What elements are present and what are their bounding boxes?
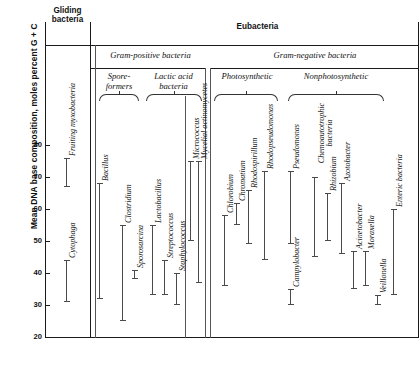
y-tick-label-50: 50	[24, 237, 42, 245]
header-eubacteria: Eubacteria	[96, 22, 419, 31]
header-lactic-line2: bacteria	[159, 81, 188, 91]
range-bar	[393, 209, 394, 295]
range-bar-label: Moraxella	[368, 215, 376, 249]
range-bar-label: Pseudomonas	[293, 124, 301, 169]
range-bar-label: Clostridium	[125, 184, 133, 223]
range-bar-label: Staphylococcus	[179, 221, 187, 271]
range-bar-label: Lactobacillus	[155, 179, 163, 223]
range-bar-label: Rhizobium	[330, 156, 338, 191]
y-axis-line	[45, 22, 46, 338]
chart-figure: Mean DNA base composition, moles percent…	[0, 0, 420, 366]
range-bar-label: Rhodopseudomonas	[267, 103, 275, 168]
brace-nonphotosynthetic	[288, 94, 384, 101]
header-gliding-bacteria: Gliding bacteria	[45, 6, 90, 24]
brace-spore-formers	[99, 94, 139, 101]
range-bar	[152, 225, 153, 295]
y-tick-label-20: 20	[24, 333, 42, 341]
y-tick-80	[45, 145, 50, 146]
range-bar-label: Rhodospirillum	[251, 137, 259, 187]
range-bar-label: Chlorobium	[227, 175, 235, 214]
divider-actinomycetes-left	[185, 96, 186, 338]
header-lactic-line1: Lactic acid	[154, 71, 192, 81]
range-bar	[134, 270, 135, 280]
range-bar	[264, 171, 265, 261]
header-spore-line2: formers	[106, 81, 133, 91]
range-bar	[290, 289, 291, 305]
range-bar	[341, 183, 342, 253]
header-rule-gram-negative	[210, 68, 419, 69]
range-bar-label: Fruiting myxobacteria	[69, 83, 77, 156]
range-bar-label: Azotobacter	[344, 142, 352, 181]
range-bar	[327, 193, 328, 241]
range-bar	[353, 251, 354, 289]
header-rule-gram-positive	[90, 68, 205, 69]
range-bar-label: Campylobacter	[293, 237, 301, 287]
range-bar	[377, 295, 378, 305]
range-bar-label: Enteric bacteria	[396, 154, 404, 207]
range-bar	[314, 177, 315, 257]
range-bar-label: Bacillus	[102, 155, 110, 182]
brace-lactic-acid	[146, 94, 202, 101]
header-spore-formers: Spore- formers	[96, 72, 142, 91]
header-nonphotosynthetic: Nonphotosynthetic	[286, 72, 386, 82]
range-bar-label: Streptococcus	[167, 213, 175, 258]
range-bar	[290, 171, 291, 245]
header-gram-negative: Gram-negative bacteria	[211, 51, 419, 61]
range-bar	[176, 273, 177, 305]
header-gliding-line1: Gliding	[53, 6, 81, 15]
range-bar	[99, 183, 100, 298]
range-bar	[66, 260, 67, 302]
y-tick-label-30: 30	[24, 301, 42, 309]
range-bar	[236, 203, 237, 225]
y-tick-20	[45, 337, 50, 338]
range-bar	[365, 251, 366, 286]
y-tick-40	[45, 273, 50, 274]
header-gliding-line2: bacteria	[52, 15, 83, 24]
y-tick-label-60: 60	[24, 205, 42, 213]
header-lactic-acid-bacteria: Lactic acid bacteria	[143, 72, 204, 91]
divider-gliding-eubacteria	[90, 22, 91, 338]
range-bar-label: Chromatium	[239, 160, 247, 201]
divider-gramneg-right	[210, 68, 211, 338]
header-gram-positive: Gram-positive bacteria	[96, 51, 205, 61]
y-tick-label-80: 80	[24, 141, 42, 149]
range-bar-label: Veillonella	[380, 259, 388, 294]
range-bar	[248, 190, 249, 244]
y-tick-label-40: 40	[24, 269, 42, 277]
range-bar	[164, 260, 165, 295]
range-bar	[224, 215, 225, 285]
range-bar-label: Acinetobacter	[356, 203, 364, 248]
header-rule-eubacteria	[90, 45, 419, 46]
y-tick-30	[45, 305, 50, 306]
y-tick-label-70: 70	[24, 173, 42, 181]
range-bar	[66, 158, 67, 187]
range-bar-label: Mycelial actinomycetes	[201, 83, 209, 159]
range-bar	[122, 225, 123, 321]
header-photosynthetic: Photosynthetic	[211, 72, 283, 82]
range-bar	[190, 161, 191, 241]
range-bar-label: Sporosarcina	[137, 225, 145, 268]
header-spore-line1: Spore-	[108, 71, 131, 81]
range-bar-label: Cytophaga	[69, 223, 77, 259]
y-tick-70	[45, 177, 50, 178]
brace-photosynthetic	[214, 94, 278, 101]
y-tick-50	[45, 241, 50, 242]
header-rule-gliding	[45, 45, 90, 46]
range-bar	[198, 161, 199, 283]
y-tick-60	[45, 209, 50, 210]
